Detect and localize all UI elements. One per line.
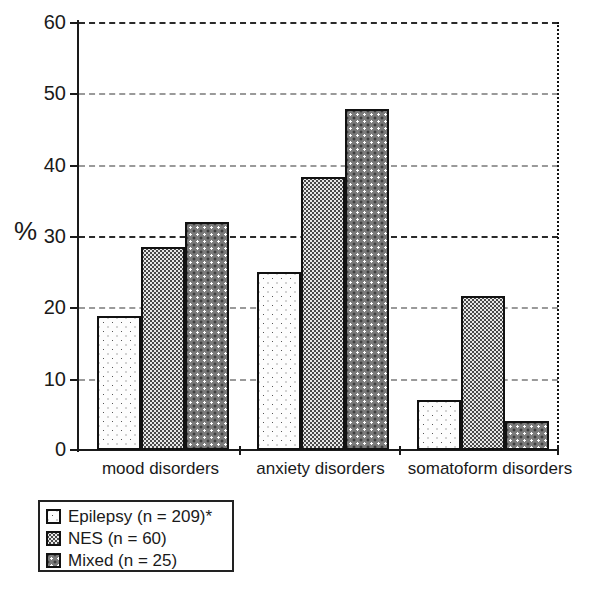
y-tick-mark-10 (70, 379, 79, 381)
plot-area (79, 22, 558, 450)
bar-mood-nes (141, 247, 185, 450)
bar-anxiety-nes (301, 177, 345, 450)
legend: Epilepsy (n = 209)* NES (n = 60) Mixed (… (38, 500, 234, 572)
x-axis-category-label-mood: mood disorders (83, 459, 238, 479)
bar-somatoform-epilepsy (417, 400, 461, 450)
y-tick-mark-60 (70, 22, 79, 24)
bar-anxiety-epilepsy (257, 272, 301, 450)
bar-mood-mixed (185, 222, 229, 450)
legend-label-epilepsy: Epilepsy (n = 209)* (68, 508, 212, 525)
legend-swatch-mixed-icon (46, 553, 61, 568)
legend-swatch-nes-icon (46, 531, 61, 546)
y-tick-label-0: 0 (6, 439, 66, 459)
y-tick-label-10: 10 (6, 369, 66, 389)
bar-somatoform-mixed (505, 421, 549, 450)
y-tick-mark-0 (70, 449, 79, 451)
bar-somatoform-nes (461, 296, 505, 450)
legend-item-epilepsy: Epilepsy (n = 209)* (46, 505, 232, 527)
legend-label-mixed: Mixed (n = 25) (68, 552, 177, 569)
y-tick-label-20: 20 (6, 297, 66, 317)
bar-mood-epilepsy (97, 316, 141, 450)
y-tick-label-40: 40 (6, 155, 66, 175)
legend-item-mixed: Mixed (n = 25) (46, 549, 232, 571)
y-tick-label-60: 60 (6, 12, 66, 32)
bar-anxiety-mixed (345, 109, 389, 450)
legend-label-nes: NES (n = 60) (68, 530, 167, 547)
y-tick-mark-40 (70, 165, 79, 167)
legend-item-nes: NES (n = 60) (46, 527, 232, 549)
y-tick-label-50: 50 (6, 83, 66, 103)
legend-swatch-epilepsy-icon (46, 509, 61, 524)
bar-chart-figure: % 60 50 40 30 20 10 0 mood diso (0, 0, 600, 602)
x-axis-category-label-anxiety: anxiety disorders (243, 459, 398, 479)
y-tick-mark-50 (70, 93, 79, 95)
y-tick-mark-20 (70, 307, 79, 309)
x-axis-category-label-somatoform: somatoform disorders (400, 459, 580, 479)
y-tick-mark-30 (70, 236, 79, 238)
y-tick-label-30: 30 (6, 226, 66, 246)
